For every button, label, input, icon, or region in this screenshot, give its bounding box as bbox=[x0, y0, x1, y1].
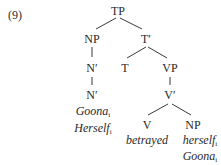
coindex: i bbox=[110, 128, 112, 136]
node-tp: TP bbox=[111, 5, 125, 17]
terminal-verb: betrayed bbox=[126, 134, 168, 146]
terminal-subject-1: Goonai bbox=[76, 105, 111, 121]
edge-tbar-t bbox=[127, 47, 146, 58]
terminal-subject-2: Herselfi bbox=[74, 122, 111, 138]
coindex: i bbox=[108, 111, 110, 119]
coindex: i bbox=[215, 140, 217, 148]
edge-tp-np bbox=[96, 18, 116, 29]
coindex: i bbox=[215, 156, 217, 164]
terminal-word: Herself bbox=[74, 121, 109, 135]
node-t-bar: T′ bbox=[141, 33, 151, 45]
node-vp: VP bbox=[162, 62, 177, 74]
terminal-word: Goona bbox=[76, 104, 109, 118]
terminal-object-1: herselfi bbox=[183, 134, 218, 150]
node-v-bar: V′ bbox=[164, 89, 175, 101]
edge-vbar-np bbox=[172, 104, 191, 115]
terminal-object-2: Goonai bbox=[183, 150, 218, 165]
node-n-bar-2: N′ bbox=[86, 89, 97, 101]
edge-vbar-v bbox=[148, 104, 168, 115]
node-v: V bbox=[143, 119, 152, 131]
node-n-bar-1: N′ bbox=[86, 62, 97, 74]
example-number: (9) bbox=[8, 9, 22, 21]
node-np-subject: NP bbox=[84, 33, 99, 45]
node-t: T bbox=[121, 62, 128, 74]
edge-tbar-vp bbox=[148, 47, 167, 58]
terminal-word: herself bbox=[183, 133, 216, 147]
node-np-object: NP bbox=[185, 119, 200, 131]
terminal-word: Goona bbox=[183, 149, 216, 163]
edge-tp-tbar bbox=[120, 18, 142, 29]
